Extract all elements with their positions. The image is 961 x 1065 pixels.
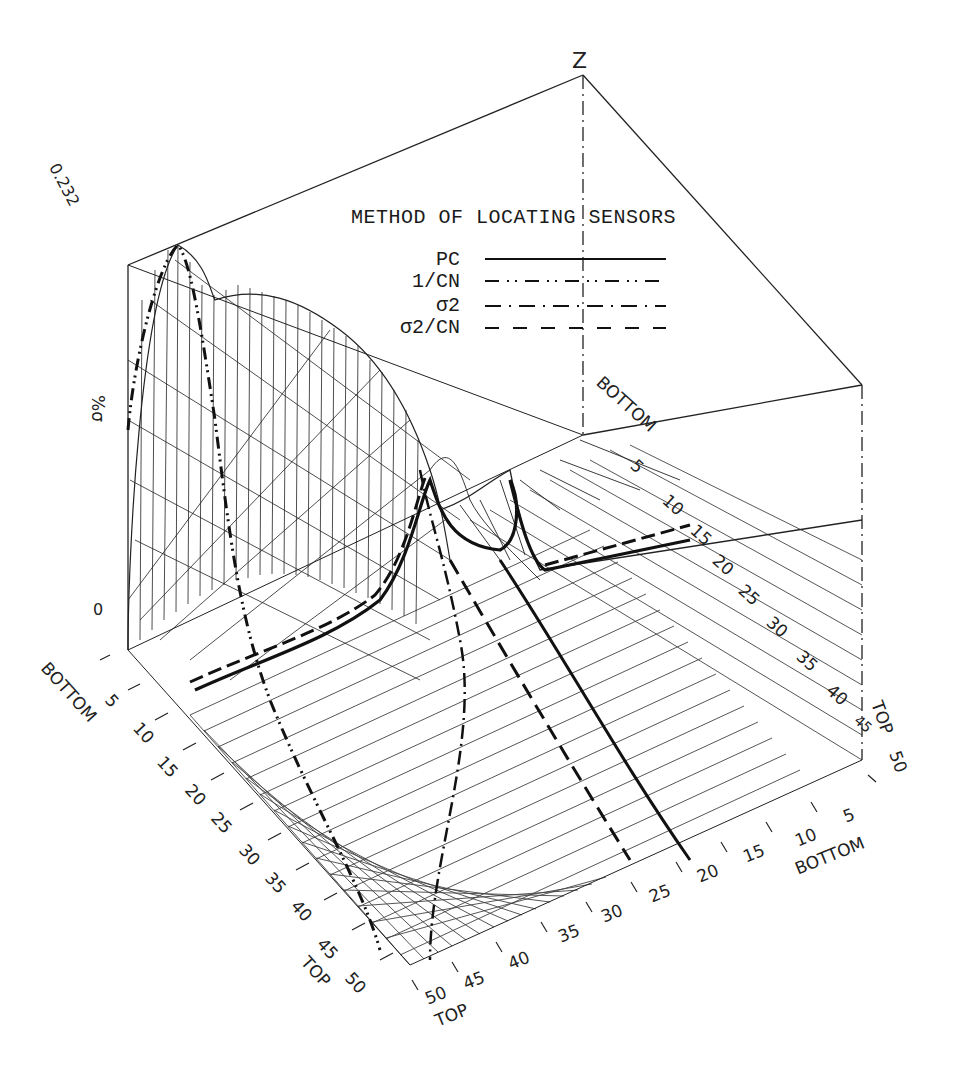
- line-sigma2cn-track: [450, 560, 630, 860]
- box-edge: [583, 75, 862, 385]
- surface-plot: [0, 0, 961, 1065]
- front-axis-ticks: [412, 775, 876, 990]
- line-pc: [195, 480, 690, 690]
- z-side-label: %σ: [88, 395, 108, 422]
- legend-label-pc: PC: [340, 248, 460, 271]
- method-lines: [128, 245, 690, 960]
- legend-label-sigma2cn: σ2/CN: [340, 316, 460, 339]
- legend-samples: [485, 259, 666, 328]
- legend-label-1cn: 1/CN: [340, 270, 460, 293]
- line-sigma2cn: [190, 478, 425, 682]
- line-pc-track: [500, 560, 690, 860]
- base-grid: [190, 445, 862, 965]
- z-axis-label: Z: [572, 48, 587, 73]
- legend-label-sigma2: σ2: [340, 294, 460, 317]
- left-axis-line: [128, 650, 410, 965]
- z-zero-label: 0: [93, 600, 103, 619]
- legend-title: METHOD OF LOCATING SENSORS: [351, 206, 676, 229]
- left-axis-ticks: [100, 655, 393, 960]
- box-edge: [128, 75, 583, 265]
